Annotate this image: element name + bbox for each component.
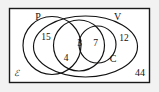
region-count-p-and-v: 4 [64, 53, 69, 63]
region-count-all-sets: 3 [77, 38, 82, 48]
region-count-p-only: 15 [41, 32, 51, 42]
set-label-v: V [114, 11, 122, 22]
venn-diagram-canvas: P V C 15 4 3 7 12 ℰ 44 [0, 0, 159, 92]
region-count-v-only: 12 [119, 33, 129, 43]
set-label-c: C [110, 53, 117, 64]
outside-sets-count: 44 [135, 67, 145, 78]
set-label-p: P [35, 11, 41, 22]
venn-diagram-figure: P V C 15 4 3 7 12 ℰ 44 [0, 0, 159, 92]
region-count-v-and-c: 7 [93, 38, 98, 48]
